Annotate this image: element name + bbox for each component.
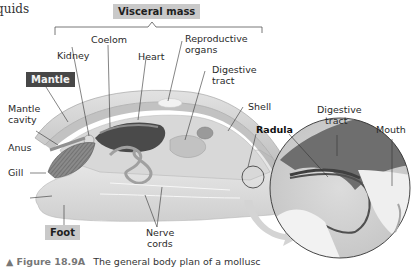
inset-digestive-tract-label-line2: tract [325, 115, 347, 126]
mouth-label: Mouth [376, 124, 406, 135]
reproductive-organs-label-line1: Reproductive [185, 33, 248, 44]
anus-label: Anus [8, 142, 32, 153]
kidney-label: Kidney [57, 50, 89, 61]
shell-label: Shell [248, 101, 271, 112]
nerve-cords-label-line2: cords [147, 238, 173, 249]
inset-digestive-tract-label-line1: Digestive [317, 104, 362, 115]
gill-label: Gill [8, 167, 23, 178]
digestive-tract-label-line2: tract [212, 75, 234, 86]
digestive-gland [197, 127, 213, 139]
mantle-cavity-label-line2: cavity [8, 114, 37, 125]
mantle-label: Mantle [26, 72, 75, 87]
heart-label: Heart [138, 51, 164, 62]
foot-label: Foot [45, 225, 80, 240]
coelom-label: Coelom [91, 34, 127, 45]
reproductive-organs [158, 99, 182, 108]
page-text-fragment: quids [0, 2, 29, 16]
mantle-cavity-label-line1: Mantle [8, 103, 40, 114]
stomach [170, 135, 206, 157]
radula-label: Radula [256, 124, 293, 135]
reproductive-organs-label-line2: organs [185, 44, 217, 55]
nerve-cords-label-line1: Nerve [146, 227, 174, 238]
visceral-mass-label: Visceral mass [113, 4, 200, 19]
figure-caption-text: The general body plan of a mollusc [93, 256, 260, 267]
digestive-tract-label-line1: Digestive [212, 64, 257, 75]
figure-number: ▲ Figure 18.9A [6, 256, 85, 267]
figure-caption: ▲ Figure 18.9AThe general body plan of a… [6, 256, 261, 267]
